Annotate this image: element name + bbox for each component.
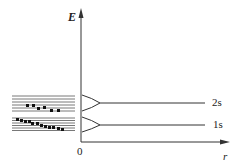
level-1s-label: 1s [213,119,223,130]
y-axis-label: E [68,11,76,23]
level-2s-label: 2s [212,97,222,108]
y-axis [79,8,84,142]
level-1s [82,117,205,132]
lower-band-electrons [16,118,64,131]
x-axis [81,140,230,145]
x-axis-arrow-icon [220,140,230,145]
origin-label: 0 [77,146,83,157]
level-2s [82,95,205,111]
y-axis-arrow-icon [79,8,84,18]
energy-level-diagram [0,0,241,167]
x-axis-label: r [223,151,227,162]
